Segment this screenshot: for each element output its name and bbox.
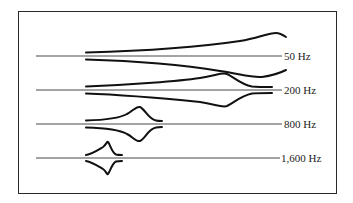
- envelope-upper-50hz: [86, 33, 286, 53]
- envelope-lower-1600hz: [86, 161, 122, 174]
- traveling-wave-diagram: 50 Hz 200 Hz 800 Hz 1,600 Hz: [0, 0, 353, 203]
- envelope-lower-200hz: [86, 93, 272, 107]
- figure-frame: [19, 12, 337, 194]
- envelope-upper-1600hz: [86, 142, 122, 155]
- envelope-lower-50hz: [86, 60, 286, 78]
- row-800hz: 800 Hz: [36, 107, 316, 141]
- frequency-label-50hz: 50 Hz: [284, 50, 311, 62]
- envelope-upper-800hz: [86, 107, 162, 121]
- frequency-label-800hz: 800 Hz: [284, 118, 316, 130]
- row-50hz: 50 Hz: [36, 33, 311, 77]
- row-1600hz: 1,600 Hz: [36, 142, 321, 174]
- frequency-label-1600hz: 1,600 Hz: [281, 152, 321, 164]
- frequency-label-200hz: 200 Hz: [284, 84, 316, 96]
- envelope-lower-800hz: [86, 127, 162, 141]
- row-200hz: 200 Hz: [36, 73, 316, 106]
